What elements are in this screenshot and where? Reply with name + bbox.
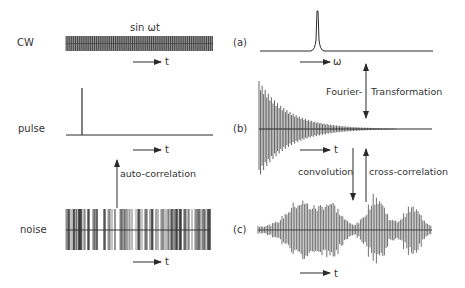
panel-c-label: (c) <box>233 224 246 236</box>
crosscorrelation-label: cross-correlation <box>369 166 448 178</box>
a-axis-label: ω <box>333 56 341 68</box>
noise-axis-label: t <box>165 256 169 268</box>
pulse-axis-label: t <box>165 144 169 156</box>
b-axis-label: t <box>334 144 338 156</box>
response-c-waveform <box>258 194 432 263</box>
cw-axis-label: t <box>165 56 169 68</box>
convolution-label: convolution <box>298 166 353 178</box>
panel-a-label: (a) <box>233 37 247 49</box>
panel-b-label: (b) <box>233 123 247 135</box>
fourier-label-left: Fourier- <box>326 86 362 98</box>
pulse-row-label: pulse <box>18 123 45 135</box>
noise-waveform <box>66 209 210 250</box>
spectrum-a-waveform <box>260 11 433 51</box>
cw-signal-label: sin ωt <box>130 22 160 34</box>
cw-waveform <box>66 36 213 51</box>
pulse-waveform <box>66 88 213 135</box>
noise-row-label: noise <box>20 224 47 236</box>
autocorrelation-label: auto-correlation <box>120 168 196 180</box>
c-axis-label: t <box>334 268 338 280</box>
diagram-canvas: CW sin ωt t pulse t auto-correlation noi… <box>0 0 465 288</box>
cw-row-label: CW <box>17 37 34 49</box>
fourier-label-right: Transformation <box>371 86 442 98</box>
